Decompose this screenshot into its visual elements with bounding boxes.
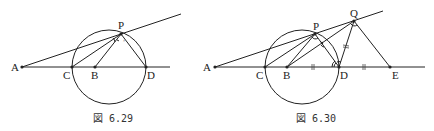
segment-CP <box>265 34 315 67</box>
segment-DQ <box>339 21 354 67</box>
point-C <box>263 65 266 68</box>
label-P: P <box>313 20 319 32</box>
segment-EQ <box>354 21 390 67</box>
point-P <box>313 32 316 35</box>
caption-6-29: 図 6.29 <box>93 113 133 124</box>
figure-canvas: × A C B D P 図 6.29 <box>0 0 434 131</box>
angle-mark-P-2 <box>117 40 119 41</box>
label-Q: Q <box>350 7 358 19</box>
label-A: A <box>11 61 19 73</box>
angle-mark-D-2 <box>334 63 336 67</box>
equal-mark-DQ-1 <box>343 45 349 46</box>
segment-BQ <box>287 21 354 67</box>
label-B: B <box>91 69 98 81</box>
figure-6-29: × A C B D P 図 6.29 <box>11 14 181 124</box>
caption-6-30: 図 6.30 <box>296 113 336 124</box>
point-C <box>70 65 73 68</box>
point-A <box>20 65 23 68</box>
point-intersection <box>321 42 323 44</box>
label-P: P <box>118 19 124 31</box>
label-C: C <box>256 69 263 81</box>
label-D: D <box>340 69 348 81</box>
point-P <box>119 32 122 35</box>
label-B: B <box>283 69 290 81</box>
segment-BP <box>95 34 121 67</box>
figure-6-30: A C B D E P Q 図 6.30 <box>203 7 425 124</box>
point-Q <box>352 19 355 22</box>
point-A <box>213 65 216 68</box>
label-A: A <box>203 61 211 73</box>
equal-mark-DQ-2 <box>343 47 349 48</box>
angle-dot-mark: × <box>123 38 125 43</box>
label-C: C <box>63 69 70 81</box>
label-D: D <box>147 69 155 81</box>
label-E: E <box>392 69 399 81</box>
